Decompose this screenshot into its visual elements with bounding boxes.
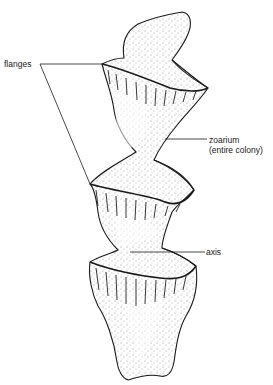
zoarium-illustration: [0, 0, 273, 385]
axis-label: axis: [206, 247, 221, 257]
zoarium-label: zoarium: [209, 135, 239, 145]
zoarium-note-label: (entire colony): [209, 145, 263, 155]
leader-flanges-lower: [40, 64, 90, 184]
flanges-label: flanges: [4, 59, 31, 69]
